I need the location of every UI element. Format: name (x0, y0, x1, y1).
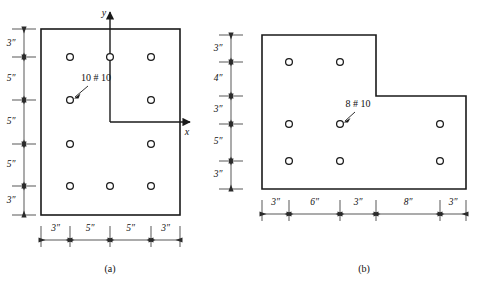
panel-a-vdim-1: 3″ (6, 38, 17, 48)
bar (337, 59, 344, 66)
bar (107, 54, 114, 61)
panel-b-bar-callout: 8 # 10 (344, 98, 371, 122)
x-axis-label: x (184, 126, 190, 137)
bar (437, 121, 444, 128)
panel-a-hdim-4: 3″ (160, 223, 171, 233)
panel-b-caption: (b) (358, 263, 370, 275)
panel-b-bar-note: 8 # 10 (346, 98, 371, 109)
panel-b-bars (286, 59, 444, 165)
panel-b-vdim-2: 4″ (214, 73, 224, 83)
panel-a-hdim-1: 3″ (50, 223, 61, 233)
leader-line (345, 112, 355, 121)
panel-a-axes: y x (101, 7, 190, 137)
bar (337, 158, 344, 165)
panel-b-hdim-5: 3″ (448, 197, 459, 207)
panel-b-vdim-5: 3″ (213, 169, 224, 179)
panel-a-vertical-dimensions: 3″ 5″ 5″ 5″ 3″ (6, 27, 36, 218)
bar (148, 141, 155, 148)
bar (148, 183, 155, 190)
panel-b-vdim-3: 3″ (213, 104, 224, 114)
panel-b-vdim-4: 5″ (214, 136, 224, 146)
bar (286, 158, 293, 165)
bar (67, 183, 74, 190)
bar (286, 59, 293, 66)
panel-a-bar-callout: 10 # 10 (74, 72, 111, 98)
panel-a-horizontal-dimensions: 3″ 5″ 5″ 3″ (39, 223, 183, 247)
bar (148, 97, 155, 104)
panel-a-vdim-3: 5″ (7, 116, 17, 126)
panel-a-hdim-2: 5″ (86, 223, 96, 233)
bar (437, 158, 444, 165)
panel-b-vdim-1: 3″ (213, 43, 224, 53)
panel-b-hdim-4: 8″ (404, 197, 414, 207)
panel-a-vdim-5: 3″ (6, 195, 17, 205)
panel-b-vertical-dimensions: 3″ 4″ 3″ 5″ 3″ (213, 33, 243, 192)
bar (67, 97, 74, 104)
panel-b-section-outline (262, 35, 466, 189)
panel-b-hdim-2: 6″ (310, 197, 320, 207)
y-axis-label: y (101, 7, 107, 18)
bar (67, 54, 74, 61)
panel-a-vdim-4: 5″ (7, 159, 17, 169)
panel-a-bar-note: 10 # 10 (81, 72, 111, 83)
engineering-figure: y x 10 # 10 (0, 0, 481, 291)
bar (337, 121, 344, 128)
leader-arrow-head (74, 94, 81, 99)
figure-container: y x 10 # 10 (0, 0, 481, 291)
bar (286, 121, 293, 128)
panel-a-hdim-3: 5″ (126, 223, 136, 233)
leader-line (75, 86, 88, 97)
panel-b-hdim-3: 3″ (353, 197, 364, 207)
panel-b-horizontal-dimensions: 3″ 6″ 3″ 8″ 3″ (260, 197, 469, 221)
panel-a-caption: (a) (104, 263, 115, 275)
bar (67, 141, 74, 148)
bar (107, 183, 114, 190)
panel-a: y x 10 # 10 (6, 7, 190, 275)
bar (148, 54, 155, 61)
panel-b: 8 # 10 (213, 33, 469, 276)
panel-a-vdim-2: 5″ (7, 73, 17, 83)
panel-b-hdim-1: 3″ (270, 197, 281, 207)
